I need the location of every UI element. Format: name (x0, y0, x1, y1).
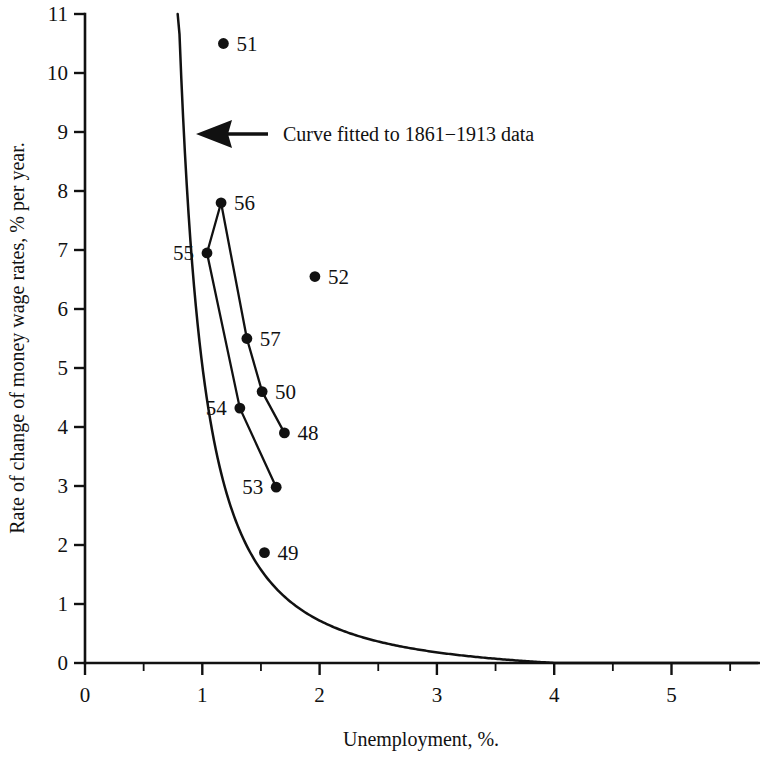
data-point-label-56: 56 (234, 191, 255, 215)
data-point-marker-52 (310, 271, 321, 282)
annotation-arrow-head (196, 120, 232, 148)
data-points-group: 48495051525354555657 (173, 32, 349, 565)
y-tick-label: 5 (58, 356, 69, 380)
x-tick-label: 4 (549, 683, 560, 707)
x-axis-tick-labels: 012345 (80, 683, 677, 707)
chart-canvas: 01234567891011 012345 484950515253545556… (0, 0, 760, 763)
data-point-marker-56 (216, 197, 227, 208)
data-point-marker-55 (202, 248, 213, 259)
x-tick-label: 2 (314, 683, 325, 707)
y-axis-title: Rate of change of money wage rates, % pe… (6, 142, 29, 534)
y-tick-label: 9 (58, 120, 69, 144)
data-point-marker-48 (279, 428, 290, 439)
data-point-49: 49 (259, 541, 298, 565)
y-tick-label: 6 (58, 297, 69, 321)
data-point-marker-49 (259, 547, 270, 558)
y-tick-label: 8 (58, 179, 69, 203)
axes-group (85, 14, 757, 663)
data-point-label-57: 57 (260, 327, 281, 351)
x-tick-label: 5 (666, 683, 677, 707)
y-axis-ticks (74, 14, 85, 663)
y-axis-tick-labels: 01234567891011 (47, 2, 69, 675)
data-point-57: 57 (241, 327, 280, 351)
data-point-marker-51 (218, 38, 229, 49)
data-point-55: 55 (173, 241, 212, 265)
data-point-marker-50 (257, 386, 268, 397)
phillips-curve-chart: 01234567891011 012345 484950515253545556… (0, 0, 760, 763)
x-tick-label: 1 (197, 683, 208, 707)
y-tick-label: 2 (58, 533, 69, 557)
data-point-label-50: 50 (275, 380, 296, 404)
y-tick-label: 11 (48, 2, 68, 26)
data-point-marker-57 (241, 333, 252, 344)
data-point-label-54: 54 (206, 396, 228, 420)
data-point-marker-53 (271, 482, 282, 493)
data-point-label-55: 55 (173, 241, 194, 265)
data-point-marker-54 (234, 403, 245, 414)
data-point-label-48: 48 (297, 421, 318, 445)
x-axis-title: Unemployment, %. (343, 728, 499, 751)
y-tick-label: 4 (58, 415, 69, 439)
data-point-label-49: 49 (277, 541, 298, 565)
data-point-51: 51 (218, 32, 257, 56)
y-tick-label: 10 (47, 61, 68, 85)
data-point-label-51: 51 (236, 32, 257, 56)
y-tick-label: 3 (58, 474, 69, 498)
x-tick-label: 3 (432, 683, 443, 707)
data-point-label-52: 52 (328, 265, 349, 289)
x-tick-label: 0 (80, 683, 91, 707)
data-point-53: 53 (242, 475, 281, 499)
data-point-label-53: 53 (242, 475, 263, 499)
y-tick-label: 0 (58, 651, 69, 675)
data-point-54: 54 (206, 396, 245, 420)
y-tick-label: 7 (58, 238, 69, 262)
annotation-label: Curve fitted to 1861−1913 data (283, 123, 534, 145)
fitted-curve-annotation: Curve fitted to 1861−1913 data (196, 120, 534, 148)
data-point-50: 50 (257, 380, 296, 404)
y-tick-label: 1 (58, 592, 69, 616)
data-point-48: 48 (279, 421, 318, 445)
data-point-52: 52 (310, 265, 349, 289)
